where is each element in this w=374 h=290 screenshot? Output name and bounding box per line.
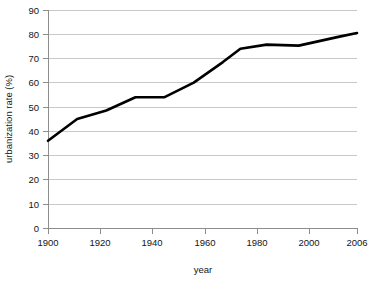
- data-line-urbanization-rate: [48, 33, 357, 141]
- y-tick-label-10: 10: [28, 199, 39, 210]
- x-tick-label-2000: 2000: [298, 237, 319, 248]
- y-tick-label-20: 20: [28, 174, 39, 185]
- x-tick-label-2006: 2006: [346, 237, 367, 248]
- y-tick-label-50: 50: [28, 102, 39, 113]
- line-chart: 90 80 70 60 50 40 30 20 10 0 1900 1920 1…: [0, 0, 374, 290]
- gridlines: [48, 10, 357, 204]
- y-axis: 90 80 70 60 50 40 30 20 10 0: [28, 5, 48, 234]
- x-tick-label-1940: 1940: [141, 237, 162, 248]
- y-tick-label-70: 70: [28, 53, 39, 64]
- y-axis-title: urbanization rate (%): [3, 75, 14, 163]
- x-tick-label-1980: 1980: [246, 237, 267, 248]
- chart-container: 90 80 70 60 50 40 30 20 10 0 1900 1920 1…: [0, 0, 374, 290]
- y-tick-label-0: 0: [34, 223, 39, 234]
- y-tick-label-80: 80: [28, 29, 39, 40]
- y-tick-label-90: 90: [28, 5, 39, 16]
- x-tick-label-1960: 1960: [194, 237, 215, 248]
- y-tick-label-30: 30: [28, 150, 39, 161]
- y-tick-label-40: 40: [28, 126, 39, 137]
- y-tick-label-60: 60: [28, 77, 39, 88]
- x-tick-label-1900: 1900: [37, 237, 58, 248]
- x-tick-label-1920: 1920: [89, 237, 110, 248]
- x-axis: 1900 1920 1940 1960 1980 2000 2006: [37, 228, 367, 248]
- x-axis-title: year: [194, 264, 212, 275]
